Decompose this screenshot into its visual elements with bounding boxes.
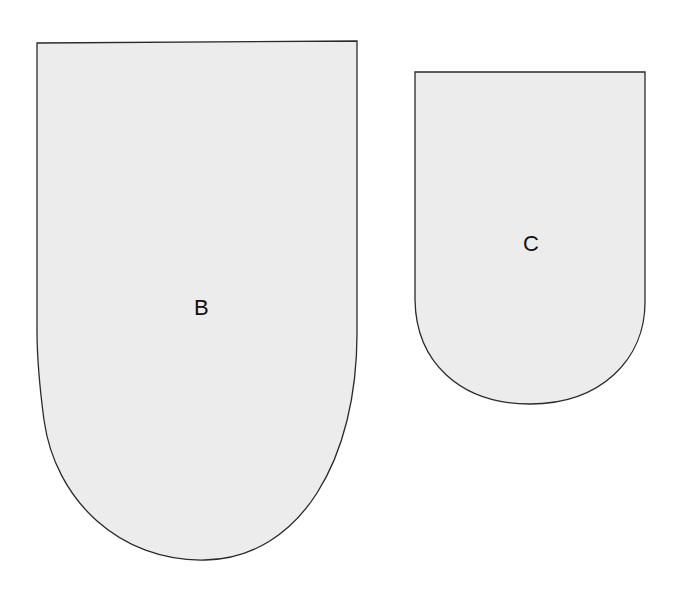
piece-label-b: B bbox=[194, 297, 209, 319]
diagram-canvas: B C bbox=[0, 0, 680, 599]
piece-label-c: C bbox=[523, 233, 539, 255]
pattern-pieces-svg bbox=[0, 0, 680, 599]
